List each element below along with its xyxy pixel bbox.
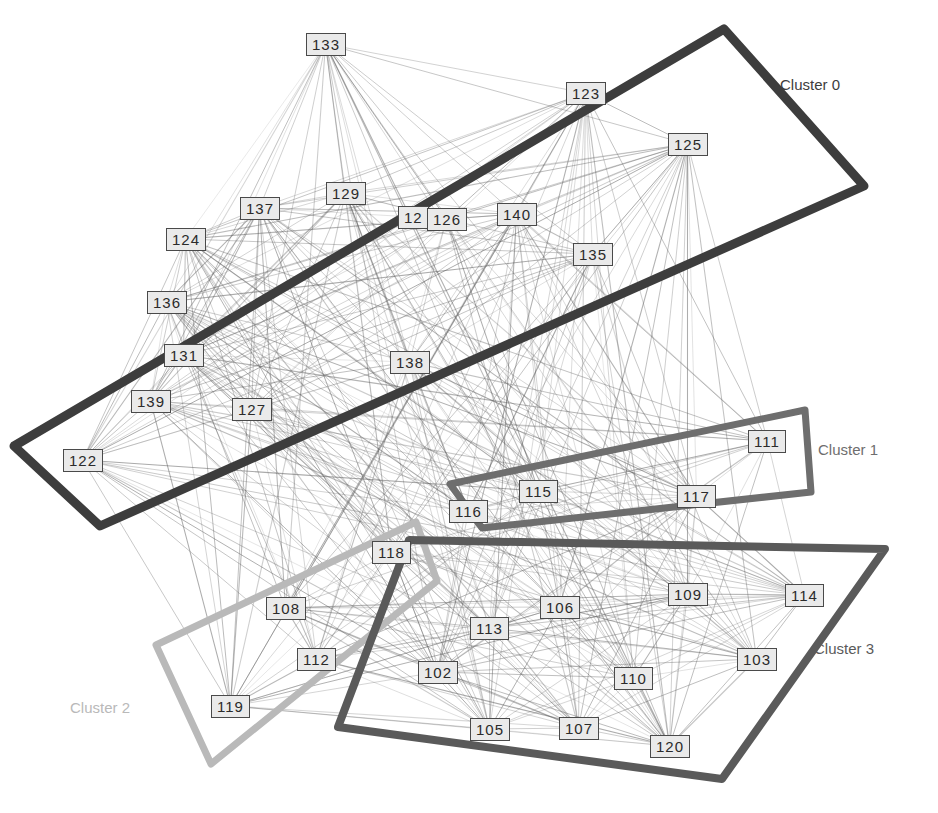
graph-node-109[interactable]: 109 (668, 583, 708, 606)
graph-node-137[interactable]: 137 (240, 197, 280, 220)
graph-node-label: 123 (572, 85, 600, 102)
graph-node-140[interactable]: 140 (497, 203, 537, 226)
graph-node-label: 102 (424, 664, 452, 681)
graph-node-label: 111 (754, 433, 780, 450)
graph-node-106[interactable]: 106 (540, 596, 580, 619)
graph-node-117[interactable]: 117 (677, 485, 716, 508)
graph-node-label: 112 (303, 651, 330, 668)
graph-node-111[interactable]: 111 (748, 430, 786, 453)
graph-node-label: 117 (683, 488, 710, 505)
graph-node-135[interactable]: 135 (573, 243, 613, 266)
graph-node-label: 140 (503, 206, 531, 223)
graph-node-label: 127 (238, 401, 266, 418)
graph-node-label: 107 (565, 720, 593, 737)
graph-node-label: 129 (332, 185, 360, 202)
graph-node-label: 120 (656, 738, 684, 755)
graph-node-127[interactable]: 127 (232, 398, 272, 421)
graph-node-123[interactable]: 123 (566, 82, 606, 105)
graph-node-label: 135 (579, 246, 607, 263)
graph-node-label: 110 (620, 670, 647, 687)
cluster-caption-2: Cluster 2 (70, 699, 130, 716)
graph-node-133[interactable]: 133 (306, 33, 346, 56)
graph-node-110[interactable]: 110 (614, 667, 653, 690)
graph-node-label: 12 (404, 209, 423, 226)
graph-node-115[interactable]: 115 (519, 480, 558, 503)
graph-node-113[interactable]: 113 (470, 617, 509, 640)
cluster-caption-1: Cluster 1 (818, 441, 878, 458)
graph-node-102[interactable]: 102 (418, 661, 458, 684)
graph-node-105[interactable]: 105 (470, 718, 510, 741)
cluster-boundary-1[interactable] (450, 410, 811, 528)
graph-node-129[interactable]: 129 (326, 182, 366, 205)
graph-node-126[interactable]: 126 (427, 208, 467, 231)
graph-canvas: 1331231251291371212614012413513613113813… (0, 0, 938, 813)
graph-node-label: 119 (217, 698, 244, 715)
graph-node-103[interactable]: 103 (737, 648, 777, 671)
graph-node-138[interactable]: 138 (390, 351, 430, 374)
graph-node-label: 109 (674, 586, 702, 603)
graph-node-label: 131 (170, 347, 198, 364)
graph-node-136[interactable]: 136 (147, 291, 187, 314)
graph-node-108[interactable]: 108 (266, 597, 306, 620)
graph-node-label: 136 (153, 294, 181, 311)
graph-node-label: 116 (455, 503, 482, 520)
graph-node-116[interactable]: 116 (449, 500, 488, 523)
graph-node-label: 115 (525, 483, 552, 500)
graph-node-131[interactable]: 131 (164, 344, 204, 367)
graph-node-125[interactable]: 125 (668, 133, 708, 156)
graph-node-118[interactable]: 118 (372, 541, 411, 564)
graph-node-119[interactable]: 119 (211, 695, 250, 718)
graph-node-114[interactable]: 114 (785, 584, 824, 607)
graph-node-label: 126 (433, 211, 461, 228)
graph-node-label: 137 (246, 200, 274, 217)
graph-node-label: 108 (272, 600, 300, 617)
graph-node-label: 133 (312, 36, 340, 53)
graph-node-label: 105 (476, 721, 504, 738)
graph-node-label: 138 (396, 354, 424, 371)
graph-node-label: 106 (546, 599, 574, 616)
cluster-caption-3: Cluster 3 (814, 640, 874, 657)
graph-node-label: 114 (791, 587, 818, 604)
graph-node-112[interactable]: 112 (297, 648, 336, 671)
graph-node-label: 118 (378, 544, 405, 561)
cluster-caption-0: Cluster 0 (780, 76, 840, 93)
graph-node-139[interactable]: 139 (131, 390, 171, 413)
graph-node-label: 125 (674, 136, 702, 153)
graph-node-label: 139 (137, 393, 165, 410)
graph-node-122[interactable]: 122 (63, 449, 103, 472)
graph-node-12x[interactable]: 12 (398, 206, 429, 229)
graph-node-120[interactable]: 120 (650, 735, 690, 758)
graph-node-124[interactable]: 124 (166, 228, 206, 251)
graph-node-107[interactable]: 107 (559, 717, 599, 740)
graph-node-label: 122 (69, 452, 97, 469)
graph-node-label: 103 (743, 651, 771, 668)
graph-node-label: 124 (172, 231, 200, 248)
graph-node-label: 113 (476, 620, 503, 637)
